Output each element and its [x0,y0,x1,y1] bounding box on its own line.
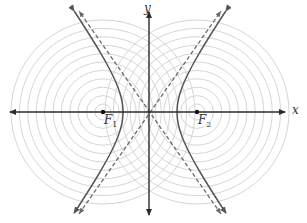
focus2-label: F2 [198,114,211,129]
y-axis-label: y [144,2,151,14]
x-axis-label: x [292,104,299,116]
hyperbola-diagram [0,0,307,223]
focus1-label: F1 [104,114,117,129]
